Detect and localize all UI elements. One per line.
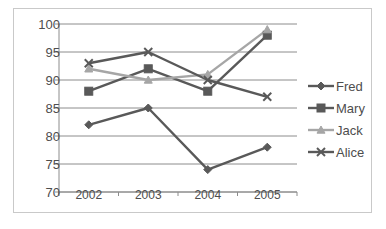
legend-marker-square-icon [307, 101, 335, 115]
legend-item-alice[interactable]: Alice [307, 141, 386, 163]
chart-container: 100959085807570 2002200320042005 FredMar… [13, 8, 372, 213]
x-axis-label-2005: 2005 [239, 189, 295, 201]
diamond-marker [85, 121, 93, 129]
square-marker [317, 104, 325, 112]
legend-marker-x-icon [307, 145, 335, 159]
y-axis-label-85: 85 [16, 102, 60, 115]
legend-marker-diamond-icon [307, 79, 335, 93]
y-axis-tick-labels: 100959085807570 [14, 9, 60, 214]
series-line-jack [89, 30, 268, 80]
y-axis-label-90: 90 [16, 74, 60, 87]
legend-marker-triangle-icon [307, 123, 335, 137]
data-point-diamond [263, 143, 271, 151]
data-point-triangle [263, 26, 271, 33]
legend-label-jack: Jack [336, 123, 363, 138]
x-axis-label-2002: 2002 [61, 189, 117, 201]
diamond-marker [263, 143, 271, 151]
x-axis-label-2004: 2004 [180, 189, 236, 201]
data-point-diamond [317, 82, 325, 90]
data-point-square [85, 87, 93, 95]
x-axis-tick-labels: 2002200320042005 [58, 189, 298, 209]
data-point-square [204, 87, 212, 95]
square-marker [85, 87, 93, 95]
triangle-marker [263, 26, 271, 33]
legend-item-mary[interactable]: Mary [307, 97, 386, 119]
legend-item-jack[interactable]: Jack [307, 119, 386, 141]
data-point-square [144, 65, 152, 73]
diamond-marker [317, 82, 325, 90]
y-axis-label-70: 70 [16, 186, 60, 199]
series-line-mary [89, 35, 268, 91]
data-point-square [317, 104, 325, 112]
legend-label-alice: Alice [336, 145, 364, 160]
data-point-diamond [85, 121, 93, 129]
x-axis-label-2003: 2003 [120, 189, 176, 201]
y-axis-label-80: 80 [16, 130, 60, 143]
y-axis-label-100: 100 [16, 18, 60, 31]
square-marker [204, 87, 212, 95]
y-axis-label-75: 75 [16, 158, 60, 171]
chart-legend: FredMaryJackAlice [307, 75, 386, 163]
square-marker [144, 65, 152, 73]
series-line-fred [89, 108, 268, 170]
legend-item-fred[interactable]: Fred [307, 75, 386, 97]
legend-label-mary: Mary [336, 101, 365, 116]
legend-label-fred: Fred [336, 79, 363, 94]
y-axis-label-95: 95 [16, 46, 60, 59]
